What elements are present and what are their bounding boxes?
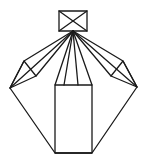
line-drawing-svg: [0, 0, 148, 164]
figure-canvas: [0, 0, 148, 164]
